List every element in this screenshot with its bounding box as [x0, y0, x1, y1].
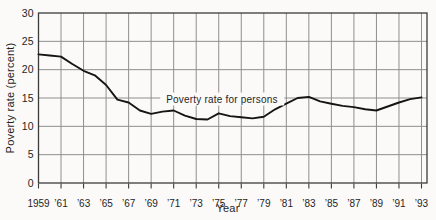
y-tick-label: 5	[28, 148, 34, 160]
poverty-rate-chart: 1959’61’63’65’67’69’71’73’75’77’79’81’83…	[0, 0, 436, 220]
x-tick-label: ’63	[77, 198, 91, 209]
x-tick-label: ’91	[392, 198, 406, 209]
x-axis-ticks	[39, 184, 422, 189]
y-axis-title: Poverty rate (percent)	[4, 43, 16, 154]
x-tick-label: ’69	[144, 198, 158, 209]
poverty-rate-line	[39, 54, 422, 119]
x-tick-label: ’83	[302, 198, 316, 209]
y-tick-label: 30	[22, 7, 34, 19]
x-tick-label: ’87	[347, 198, 361, 209]
x-tick-label: ’71	[167, 198, 181, 209]
y-tick-label: 10	[22, 120, 34, 132]
y-tick-label: 15	[22, 92, 34, 104]
y-tick-label: 0	[28, 177, 34, 189]
x-tick-label: ’93	[415, 198, 429, 209]
x-tick-label: ’61	[54, 198, 68, 209]
x-axis-title: Year	[216, 202, 239, 214]
x-tick-label: ’85	[325, 198, 339, 209]
x-tick-label: ’67	[122, 198, 136, 209]
x-tick-label: ’79	[257, 198, 271, 209]
y-tick-label: 25	[22, 35, 34, 47]
series-annotation-label: Poverty rate for persons	[160, 93, 284, 106]
chart-canvas: 1959’61’63’65’67’69’71’73’75’77’79’81’83…	[0, 0, 436, 220]
x-tick-label: ’65	[99, 198, 113, 209]
x-tick-label: 1959	[27, 198, 50, 209]
y-tick-labels: 051015202530	[22, 7, 34, 189]
y-tick-label: 20	[22, 63, 34, 75]
x-tick-label: ’73	[190, 198, 204, 209]
x-tick-label: ’81	[280, 198, 294, 209]
x-tick-label: ’89	[370, 198, 384, 209]
